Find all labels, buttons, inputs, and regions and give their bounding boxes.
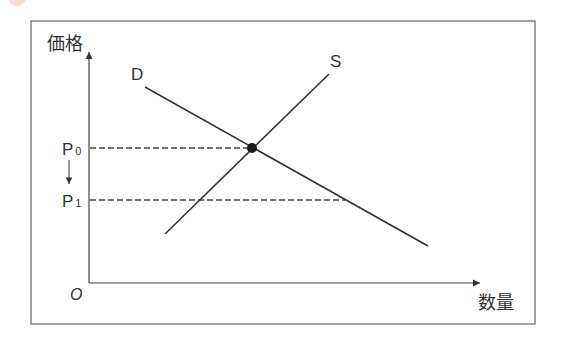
supply-curve: [165, 74, 329, 234]
demand-label: D: [131, 65, 143, 84]
demand-curve: [145, 87, 428, 246]
supply-demand-diagram: 価格 数量 O P0 P1 D S: [0, 0, 561, 344]
equilibrium-point: [247, 143, 257, 153]
y-axis-label: 価格: [47, 33, 83, 54]
supply-label: S: [330, 52, 341, 71]
x-axis-label: 数量: [478, 292, 514, 313]
origin-label: O: [70, 286, 82, 303]
p1-label: P1: [62, 192, 81, 211]
p0-label: P0: [62, 140, 81, 159]
diagram-frame: [31, 21, 535, 324]
